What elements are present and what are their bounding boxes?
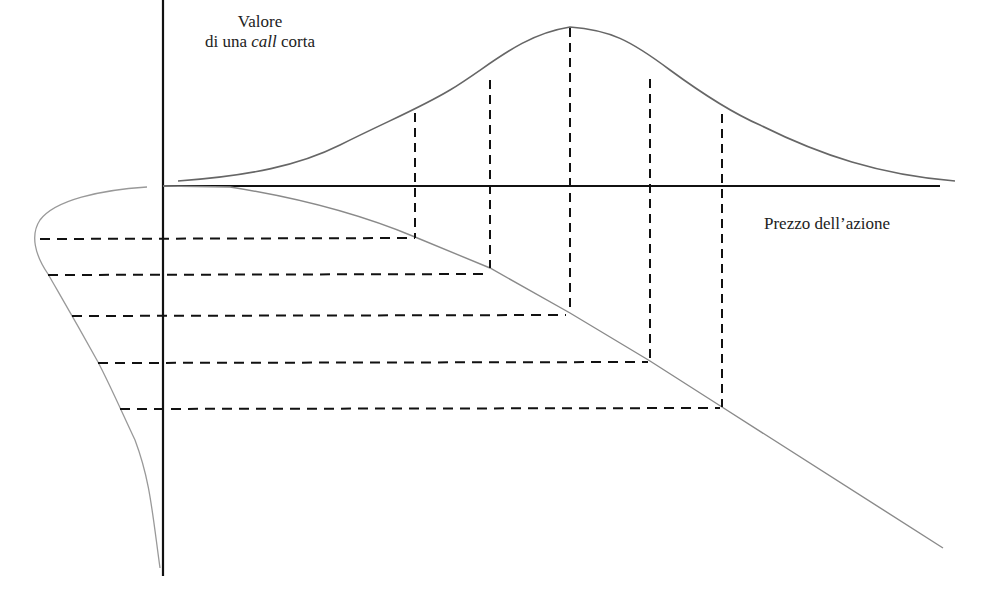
vertical-projection-lines [415, 28, 722, 407]
y-label-italic-call: call [251, 32, 277, 51]
y-axis-label: Valore di una call corta [205, 12, 315, 52]
short-call-value-distribution-curve [35, 187, 160, 568]
y-label-post: corta [277, 32, 315, 51]
y-axis-label-line1: Valore [205, 12, 315, 32]
horizontal-projection-lines [40, 238, 720, 409]
x-axis-label: Prezzo dell’azione [764, 214, 890, 234]
short-call-value-diagram [0, 0, 981, 595]
y-axis-label-line2: di una call corta [205, 32, 315, 52]
y-label-pre: di una [205, 32, 251, 51]
short-call-value-curve [163, 186, 943, 548]
